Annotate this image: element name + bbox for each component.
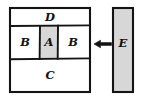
label-a: A (44, 35, 54, 49)
divider-middle-c (11, 58, 90, 59)
label-c: C (45, 68, 55, 82)
label-b-right: B (67, 35, 78, 49)
divider-d-middle (11, 25, 90, 26)
diagram-canvas: D B A B C E (0, 0, 141, 104)
label-e: E (118, 36, 128, 50)
region-e-fill (113, 8, 133, 92)
left-arrow-icon (94, 40, 112, 48)
label-b-left: B (19, 35, 30, 49)
region-diagram: D B A B C E (0, 0, 141, 104)
label-d: D (44, 10, 55, 24)
